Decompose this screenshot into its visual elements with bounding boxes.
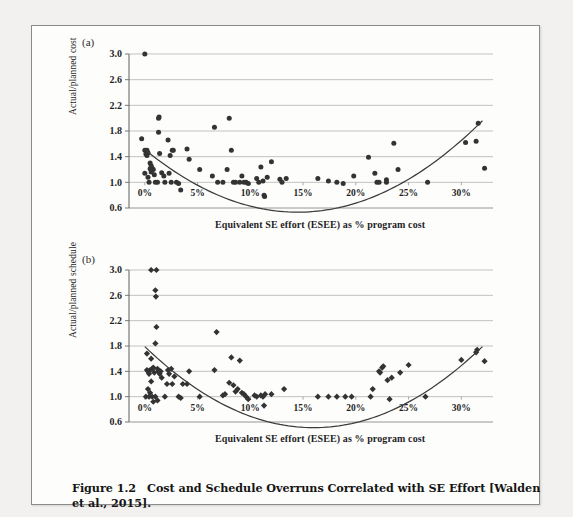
svg-text:30%: 30% xyxy=(452,188,471,198)
svg-text:2.2: 2.2 xyxy=(110,315,123,326)
svg-text:15%: 15% xyxy=(294,403,313,413)
svg-text:1.4: 1.4 xyxy=(110,366,123,377)
svg-text:10%: 10% xyxy=(241,188,260,198)
svg-text:2.2: 2.2 xyxy=(110,100,123,111)
chart-panel-a: (a) 0.61.01.41.82.22.63.00%5%10%15%20%25… xyxy=(32,26,541,256)
chart-panel-b: (b) 0.61.01.41.82.22.63.00%5%10%15%20%25… xyxy=(32,244,541,459)
svg-text:0.6: 0.6 xyxy=(110,416,123,427)
svg-text:3.0: 3.0 xyxy=(110,48,123,59)
svg-text:25%: 25% xyxy=(399,403,418,413)
x-axis-title-a: Equivalent SE effort (ESEE) as % program… xyxy=(215,219,425,230)
svg-text:0%: 0% xyxy=(138,403,152,413)
svg-text:3.0: 3.0 xyxy=(110,264,123,275)
svg-text:30%: 30% xyxy=(452,403,471,413)
scatter-chart-cost: 0.61.01.41.82.22.63.00%5%10%15%20%25%30% xyxy=(32,26,541,241)
svg-text:0.6: 0.6 xyxy=(110,202,123,213)
svg-text:1.8: 1.8 xyxy=(110,340,123,351)
y-axis-title-b: Actual/planned schedule xyxy=(68,242,78,338)
svg-text:1.8: 1.8 xyxy=(110,125,123,136)
svg-text:25%: 25% xyxy=(399,188,418,198)
svg-text:20%: 20% xyxy=(346,403,365,413)
svg-text:5%: 5% xyxy=(190,403,204,413)
caption-body: Cost and Schedule Overruns Correlated wi… xyxy=(72,481,540,510)
scatter-chart-schedule: 0.61.01.41.82.22.63.00%5%10%15%20%25%30% xyxy=(32,244,541,449)
svg-text:1.0: 1.0 xyxy=(110,177,123,188)
svg-text:10%: 10% xyxy=(241,403,260,413)
svg-text:1.4: 1.4 xyxy=(110,151,123,162)
svg-text:15%: 15% xyxy=(294,188,313,198)
figure-caption: Figure 1.2Cost and Schedule Overruns Cor… xyxy=(72,481,542,512)
figure-container: (a) 0.61.01.41.82.22.63.00%5%10%15%20%25… xyxy=(31,25,540,505)
svg-text:1.0: 1.0 xyxy=(110,391,123,402)
svg-text:20%: 20% xyxy=(346,188,365,198)
y-axis-title-a: Actual/planned cost xyxy=(68,37,78,115)
svg-text:2.6: 2.6 xyxy=(110,74,123,85)
svg-text:2.6: 2.6 xyxy=(110,290,123,301)
caption-figure-number: Figure 1.2 xyxy=(72,481,136,495)
svg-text:5%: 5% xyxy=(190,188,204,198)
svg-text:0%: 0% xyxy=(138,188,152,198)
x-axis-title-b: Equivalent SE effort (ESEE) as % program… xyxy=(215,433,425,444)
